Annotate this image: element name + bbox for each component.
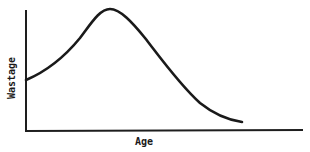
wastage-curve bbox=[26, 9, 242, 122]
x-axis-label: Age bbox=[135, 136, 153, 147]
x-axis bbox=[26, 130, 302, 131]
y-axis-label: Wastage bbox=[6, 57, 17, 99]
wastage-age-chart: Age Wastage bbox=[0, 0, 310, 152]
